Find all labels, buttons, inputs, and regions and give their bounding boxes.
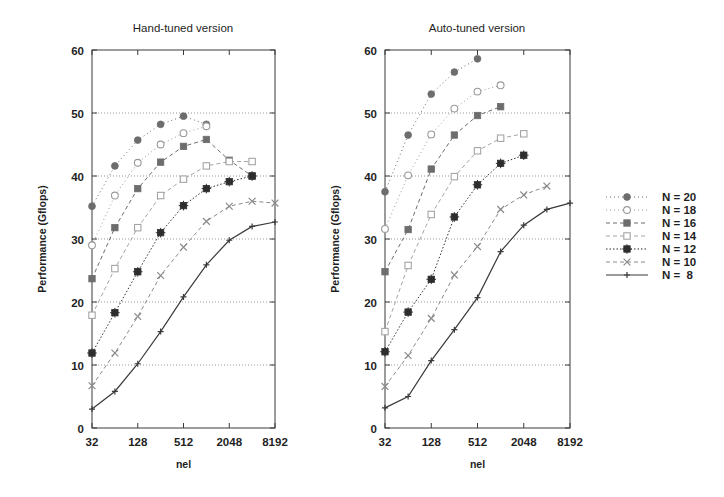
marker-glyph <box>89 275 95 281</box>
marker-glyph <box>474 88 481 95</box>
y-tick-label: 0 <box>78 423 84 435</box>
data-point-open-square <box>135 224 141 230</box>
data-point-open-square <box>451 173 457 179</box>
data-point-filled-circle <box>89 203 96 210</box>
data-point-open-square <box>249 158 255 164</box>
marker-glyph <box>428 91 435 98</box>
data-point-open-square <box>428 211 434 217</box>
data-point-star-square <box>133 267 143 277</box>
figure-background <box>0 0 724 497</box>
data-point-open-square <box>89 312 95 318</box>
data-point-star-square <box>622 244 632 254</box>
marker-glyph <box>89 242 96 249</box>
marker-glyph <box>180 130 187 137</box>
data-point-filled-circle <box>180 113 187 120</box>
marker-glyph <box>203 136 209 142</box>
marker-glyph <box>135 224 141 230</box>
data-point-filled-circle <box>382 188 389 195</box>
data-point-filled-circle <box>134 137 141 144</box>
data-point-star-square <box>450 212 460 222</box>
marker-glyph <box>180 113 187 120</box>
x-tick-label: 2048 <box>511 436 537 448</box>
data-point-star-square <box>179 201 189 211</box>
data-point-open-circle <box>111 192 118 199</box>
x-tick-label: 32 <box>379 436 392 448</box>
data-point-filled-square <box>382 269 388 275</box>
data-point-star-square <box>473 180 483 190</box>
marker-glyph <box>382 226 389 233</box>
data-point-open-circle <box>203 123 210 130</box>
data-point-open-circle <box>624 207 631 214</box>
data-point-filled-circle <box>474 55 481 62</box>
data-point-filled-square <box>157 159 163 165</box>
data-point-open-circle <box>405 172 412 179</box>
data-point-filled-square <box>624 220 630 226</box>
marker-glyph <box>451 105 458 112</box>
marker-glyph <box>624 220 630 226</box>
data-point-filled-square <box>112 224 118 230</box>
x-tick-label: 128 <box>128 436 148 448</box>
data-point-open-square <box>624 233 630 239</box>
marker-glyph <box>89 203 96 210</box>
marker-glyph <box>497 135 503 141</box>
marker-glyph <box>180 143 186 149</box>
marker-glyph <box>624 233 630 239</box>
marker-glyph <box>157 159 163 165</box>
data-point-open-square <box>382 328 388 334</box>
data-point-open-square <box>112 265 118 271</box>
data-point-open-square <box>521 131 527 137</box>
marker-glyph <box>428 166 434 172</box>
y-tick-label: 50 <box>71 108 84 120</box>
marker-glyph <box>112 224 118 230</box>
y-axis-label: Performance (Gflops) <box>329 185 341 292</box>
x-tick-label: 32 <box>86 436 99 448</box>
data-point-filled-circle <box>111 163 118 170</box>
data-point-star-square <box>426 275 436 285</box>
data-point-star-square <box>496 159 506 169</box>
marker-glyph <box>180 176 186 182</box>
data-point-open-circle <box>180 130 187 137</box>
legend-label: N = 16 <box>662 217 696 229</box>
marker-glyph <box>382 188 389 195</box>
marker-glyph <box>624 194 631 201</box>
data-point-star-square <box>519 150 529 160</box>
legend-label: N = 10 <box>662 256 696 268</box>
x-axis-label: nel <box>176 458 191 470</box>
data-point-star-square <box>247 171 257 181</box>
marker-glyph <box>203 123 210 130</box>
marker-glyph <box>249 158 255 164</box>
data-point-star-square <box>202 184 212 194</box>
y-tick-label: 50 <box>364 108 377 120</box>
data-point-open-square <box>226 158 232 164</box>
data-point-filled-circle <box>405 132 412 139</box>
marker-glyph <box>405 132 412 139</box>
marker-glyph <box>111 192 118 199</box>
legend-label: N = 14 <box>662 230 697 242</box>
marker-glyph <box>382 269 388 275</box>
data-point-open-circle <box>89 242 96 249</box>
marker-glyph <box>89 312 95 318</box>
legend-label: N = 8 <box>662 269 694 281</box>
data-point-filled-square <box>89 275 95 281</box>
data-point-open-circle <box>382 226 389 233</box>
marker-glyph <box>135 185 141 191</box>
marker-glyph <box>428 211 434 217</box>
marker-glyph <box>474 55 481 62</box>
marker-glyph <box>111 163 118 170</box>
data-point-open-square <box>157 192 163 198</box>
legend-label: N = 12 <box>662 243 696 255</box>
data-point-filled-square <box>474 112 480 118</box>
marker-glyph <box>521 131 527 137</box>
y-tick-label: 20 <box>364 297 377 309</box>
legend-label: N = 18 <box>662 204 697 216</box>
marker-glyph <box>157 121 164 128</box>
data-point-open-circle <box>497 82 504 89</box>
data-point-star-square <box>224 177 234 187</box>
data-point-filled-square <box>497 104 503 110</box>
x-tick-label: 128 <box>422 436 442 448</box>
data-point-filled-circle <box>428 91 435 98</box>
y-tick-label: 60 <box>364 45 377 57</box>
data-point-open-square <box>203 163 209 169</box>
x-tick-label: 512 <box>174 436 193 448</box>
data-point-open-square <box>474 148 480 154</box>
